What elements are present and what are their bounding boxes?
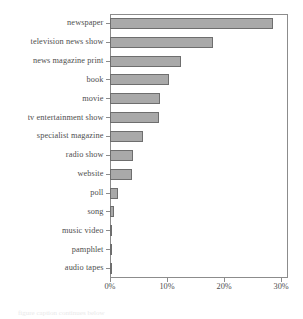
bar-chart-figure: newspapertelevision news shownews magazi…	[0, 0, 303, 319]
bar	[110, 150, 133, 161]
y-axis-label-radio-show: radio show	[66, 146, 110, 165]
y-axis-label-text: pamphlet	[72, 246, 104, 254]
y-axis-label-audio-tapes: audio tapes	[65, 259, 110, 278]
y-axis-label-text: television news show	[31, 38, 104, 46]
bar-row	[110, 89, 160, 108]
bar	[110, 244, 112, 255]
bar-row	[110, 184, 118, 203]
x-axis-tick-label: 30%	[274, 283, 289, 291]
x-axis-tick-label: 10%	[159, 283, 174, 291]
x-axis-tick-label: 0%	[104, 283, 115, 291]
y-axis-label-text: specialist magazine	[37, 132, 104, 140]
bar-row	[110, 127, 143, 146]
y-axis-label-specialist-magazine: specialist magazine	[37, 127, 110, 146]
y-axis-label-text: tv entertainment show	[28, 114, 104, 122]
y-axis-label-news-magazine-print: news magazine print	[33, 52, 110, 71]
bar	[110, 169, 132, 180]
y-axis-label-text: website	[77, 170, 103, 178]
y-axis-label-tv-entertainment-show: tv entertainment show	[28, 108, 110, 127]
bar	[110, 188, 118, 199]
bar	[110, 206, 114, 217]
y-axis-label-text: poll	[90, 189, 103, 197]
y-axis-label-text: newspaper	[67, 19, 103, 27]
bar	[110, 56, 181, 67]
bar-row	[110, 203, 114, 222]
bar-row	[110, 52, 181, 71]
y-axis-label-website: website	[77, 165, 110, 184]
y-axis-label-text: audio tapes	[65, 264, 104, 272]
y-axis-label-text: music video	[62, 227, 103, 235]
bars-container	[110, 14, 288, 278]
y-axis-category-labels: newspapertelevision news shownews magazi…	[0, 14, 110, 278]
bar	[110, 18, 273, 29]
bar-row	[110, 71, 169, 90]
y-axis-label-text: radio show	[66, 151, 104, 159]
x-axis: 0%10%20%30%	[110, 278, 288, 300]
bar-row	[110, 14, 273, 33]
y-axis-label-text: song	[87, 208, 103, 216]
y-axis-label-text: news magazine print	[33, 57, 104, 65]
y-axis-label-text: book	[87, 76, 104, 84]
bar	[110, 263, 112, 274]
bar	[110, 131, 143, 142]
bar	[110, 225, 112, 236]
x-axis-tick-label: 20%	[216, 283, 231, 291]
bar-row	[110, 108, 159, 127]
caption-ghost-text: figure caption continues below	[18, 309, 105, 317]
bar-row	[110, 221, 112, 240]
y-axis-label-song: song	[87, 203, 110, 222]
y-axis-label-music-video: music video	[62, 221, 110, 240]
y-axis-label-television-news-show: television news show	[31, 33, 110, 52]
bar-row	[110, 240, 112, 259]
bar	[110, 74, 169, 85]
y-axis-label-newspaper: newspaper	[67, 14, 110, 33]
y-axis-label-movie: movie	[82, 89, 110, 108]
bar	[110, 93, 160, 104]
y-axis-label-book: book	[87, 71, 111, 90]
bar	[110, 37, 213, 48]
bar-row	[110, 259, 112, 278]
bar-row	[110, 33, 213, 52]
y-axis-label-poll: poll	[90, 184, 110, 203]
bar	[110, 112, 159, 123]
y-axis-label-text: movie	[82, 95, 103, 103]
bar-row	[110, 146, 133, 165]
bar-row	[110, 165, 132, 184]
y-axis-label-pamphlet: pamphlet	[72, 240, 110, 259]
